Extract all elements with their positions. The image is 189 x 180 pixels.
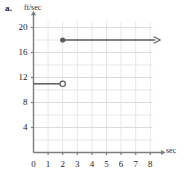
y-tick-label: 20 bbox=[10, 22, 28, 32]
figure-container: a. ft/sec sec 48121620012345678 bbox=[0, 0, 189, 180]
x-tick-label: 3 bbox=[71, 159, 83, 169]
x-tick-label: 6 bbox=[115, 159, 127, 169]
y-tick-label: 4 bbox=[10, 122, 28, 132]
y-tick-label: 12 bbox=[10, 72, 28, 82]
x-tick-label: 8 bbox=[144, 159, 156, 169]
x-tick-label: 7 bbox=[130, 159, 142, 169]
axis-tick-marks bbox=[31, 28, 150, 156]
x-tick-label: 4 bbox=[86, 159, 98, 169]
y-tick-label: 16 bbox=[10, 47, 28, 57]
plot-area bbox=[0, 0, 189, 180]
data-series bbox=[34, 37, 161, 87]
axes bbox=[31, 11, 166, 155]
y-tick-label: 8 bbox=[10, 97, 28, 107]
x-tick-label: 5 bbox=[101, 159, 113, 169]
x-tick-label: 2 bbox=[57, 159, 69, 169]
x-tick-label: 1 bbox=[42, 159, 54, 169]
x-tick-label: 0 bbox=[28, 159, 40, 169]
